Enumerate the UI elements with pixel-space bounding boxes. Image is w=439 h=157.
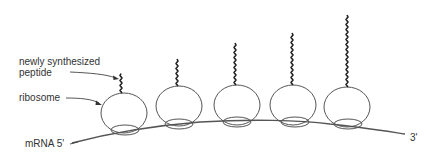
peptide-chain-1 [120,74,122,94]
label-peptide-line2: peptide [19,67,52,78]
peptide-chain-3 [234,43,236,85]
ribosome-arrowhead-icon [96,101,103,106]
peptide-leader-arrow [70,72,116,78]
label-mrna-5prime: mRNA 5' [25,138,64,149]
peptide-chain-4 [291,33,293,85]
ribosome-large-subunit [324,87,370,127]
ribosome-3 [214,43,260,127]
peptide-arrowhead-icon [113,76,119,81]
ribosome-4 [270,33,316,127]
peptide-chain-5 [346,15,348,87]
ribosome-small-subunit [334,119,362,129]
label-mrna-3prime: 3' [410,132,418,143]
ribosome-large-subunit [101,93,147,133]
ribosome-5 [324,15,370,129]
ribosome-large-subunit [156,86,202,126]
ribosome-large-subunit [214,85,260,125]
mrna-strand [72,120,405,143]
label-peptide-line1: newly synthesized [19,56,100,67]
ribosome-1 [101,74,147,136]
label-ribosome: ribosome [19,92,61,103]
polyribosome-diagram: newly synthesized peptide ribosome mRNA … [0,0,439,157]
ribosome-2 [156,59,202,129]
peptide-chain-2 [176,59,178,86]
ribosome-large-subunit [270,85,316,125]
ribosome-leader-arrow [66,98,99,103]
